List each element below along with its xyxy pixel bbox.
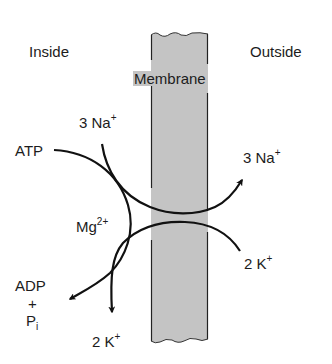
plus-sign: + [28,296,37,311]
potassium-outside-charge: + [267,253,273,264]
outside-label: Outside [250,44,302,59]
sodium-inside-label: 3 Na+ [79,115,117,130]
inside-label: Inside [29,44,69,59]
potassium-inside-label: 2 K+ [92,334,120,349]
phosphate-text: P [26,312,36,329]
potassium-inside-text: 2 K [92,333,115,350]
magnesium-text: Mg [76,218,97,235]
phosphate-subscript: i [36,321,38,332]
potassium-outside-label: 2 K+ [244,256,272,271]
sodium-inside-text: 3 Na [79,114,111,131]
magnesium-charge: 2+ [97,216,108,227]
potassium-outside-text: 2 K [244,255,267,272]
potassium-inside-charge: + [115,331,121,342]
sodium-outside-label: 3 Na+ [243,150,281,165]
sodium-inside-charge: + [111,112,117,123]
atp-label: ATP [15,143,43,158]
magnesium-label: Mg2+ [76,219,108,234]
adp-label: ADP [15,278,46,293]
membrane-label: Membrane [133,71,207,86]
phosphate-label: Pi [26,313,38,328]
sodium-outside-text: 3 Na [243,149,275,166]
sodium-outside-charge: + [275,147,281,158]
